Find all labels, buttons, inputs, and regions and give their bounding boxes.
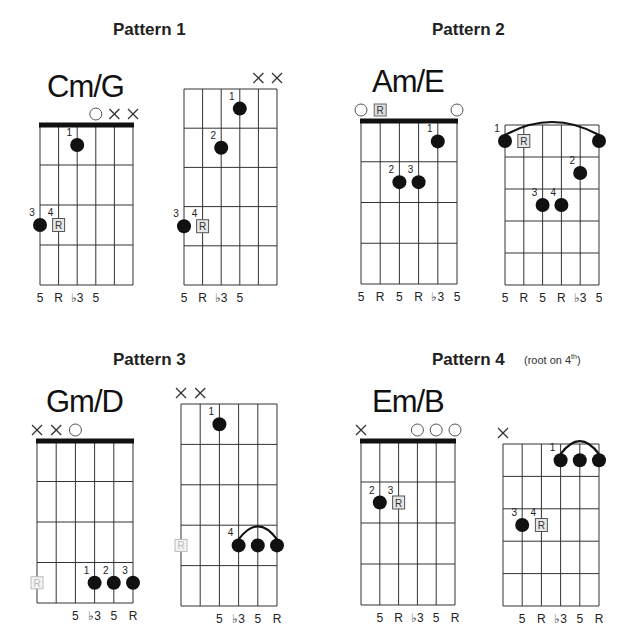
interval-label: 5: [502, 291, 509, 305]
interval-label: ♭3: [431, 290, 444, 304]
finger-dot: [412, 175, 426, 189]
interval-label: R: [557, 291, 566, 305]
chord-name-em-b: Em/B: [372, 384, 444, 419]
chord-diagram: R1235♭35R: [31, 424, 140, 623]
root-marker-label: R: [377, 105, 384, 116]
interval-label: ♭3: [71, 291, 84, 305]
chord-name-gm-d: Gm/D: [46, 384, 123, 419]
chord-diagram: 1R45♭35R: [175, 388, 284, 626]
interval-label: ♭3: [88, 609, 101, 623]
interval-label: 5: [181, 291, 188, 305]
finger-dot: [126, 576, 140, 590]
interval-label: 5: [72, 609, 79, 623]
interval-label: R: [451, 611, 460, 625]
finger-number: 4: [551, 187, 557, 198]
finger-number: 3: [408, 164, 414, 175]
finger-number: 1: [494, 123, 500, 134]
open-string-icon: [355, 104, 367, 116]
finger-dot: [592, 134, 606, 148]
interval-label: ♭3: [232, 612, 245, 626]
interval-label: 5: [92, 291, 99, 305]
finger-number: 3: [511, 507, 517, 518]
finger-number: 1: [427, 123, 433, 134]
finger-dot: [214, 141, 228, 155]
ghost-root-label: R: [33, 578, 40, 589]
finger-number: 4: [192, 208, 198, 219]
interval-label: 5: [519, 612, 526, 626]
interval-label: 5: [254, 612, 261, 626]
interval-label: 5: [596, 291, 603, 305]
chord-diagram: R1235R5R♭35: [355, 104, 463, 304]
finger-dot: [498, 134, 512, 148]
interval-label: R: [519, 291, 528, 305]
barre-arc: [505, 122, 599, 135]
interval-label: 5: [376, 611, 383, 625]
interval-label: 5: [358, 290, 365, 304]
finger-number: 1: [66, 127, 72, 138]
open-string-icon: [411, 424, 423, 436]
interval-label: R: [595, 612, 604, 626]
finger-number: 2: [369, 485, 375, 496]
finger-dot: [536, 198, 550, 212]
muted-string-icon: [128, 109, 138, 119]
nut: [360, 439, 456, 444]
finger-number: 1: [209, 406, 215, 417]
open-string-icon: [449, 424, 461, 436]
finger-dot: [232, 538, 246, 552]
finger-number: 4: [228, 527, 234, 538]
nut: [39, 123, 134, 128]
interval-label: R: [198, 291, 207, 305]
interval-label: R: [537, 612, 546, 626]
finger-number: 2: [569, 155, 575, 166]
finger-number: 3: [122, 565, 128, 576]
interval-label: 5: [236, 291, 243, 305]
finger-dot: [431, 134, 445, 148]
chord-diagram: 2R35R♭35R: [356, 424, 461, 625]
interval-label: 5: [216, 612, 223, 626]
interval-label: 5: [454, 290, 461, 304]
finger-dot: [233, 102, 247, 116]
nut: [360, 119, 458, 124]
interval-label: R: [376, 290, 385, 304]
finger-dot: [88, 576, 102, 590]
open-string-icon: [69, 424, 81, 436]
finger-dot: [515, 518, 529, 532]
interval-label: R: [129, 609, 138, 623]
root-marker-label: R: [395, 498, 402, 509]
pattern-3-title: Pattern 3: [113, 350, 186, 369]
finger-number: 1: [550, 442, 556, 453]
finger-dot: [107, 576, 121, 590]
chord-diagram: 13R45R♭35: [29, 108, 138, 305]
chord-patterns-sheet: Pattern 1 Pattern 2 Pattern 3 Pattern 4 …: [0, 0, 633, 638]
muted-string-icon: [51, 425, 61, 435]
open-string-icon: [430, 424, 442, 436]
finger-number: 3: [388, 485, 394, 496]
finger-number: 3: [173, 208, 179, 219]
finger-dot: [554, 198, 568, 212]
interval-label: ♭3: [554, 612, 567, 626]
finger-number: 4: [48, 207, 54, 218]
muted-string-icon: [272, 73, 282, 83]
muted-string-icon: [32, 425, 42, 435]
open-string-icon: [451, 104, 463, 116]
ghost-root-label: R: [177, 540, 184, 551]
interval-label: 5: [396, 290, 403, 304]
finger-dot: [251, 538, 265, 552]
muted-string-icon: [195, 388, 205, 398]
finger-dot: [392, 175, 406, 189]
pattern-4-heading: Pattern 4 (root on 4th): [432, 350, 581, 369]
interval-label: R: [394, 611, 403, 625]
finger-number: 2: [103, 565, 109, 576]
finger-dot: [70, 138, 84, 152]
finger-dot: [373, 496, 387, 510]
finger-number: 1: [84, 565, 90, 576]
root-marker-label: R: [55, 220, 62, 231]
finger-dot: [33, 218, 47, 232]
finger-dot: [573, 453, 587, 467]
interval-label: R: [273, 612, 282, 626]
pattern-4-title: Pattern 4: [432, 350, 505, 369]
muted-string-icon: [253, 73, 263, 83]
pattern-4-subtitle: (root on 4th): [524, 353, 581, 366]
interval-label: 5: [37, 291, 44, 305]
root-marker-label: R: [199, 221, 206, 232]
